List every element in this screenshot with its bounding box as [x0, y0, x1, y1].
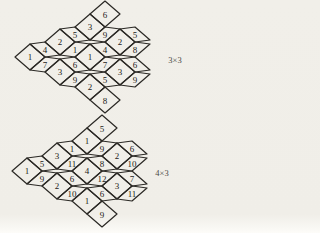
cell-number: 4 [85, 166, 90, 176]
cell-number: 4 [43, 45, 48, 55]
cell-number: 8 [103, 96, 108, 106]
cell-number: 9 [40, 174, 45, 184]
cell-number: 5 [40, 159, 45, 169]
cell-number: 5 [103, 75, 108, 85]
cell-number: 1 [28, 52, 33, 62]
cell-number: 2 [118, 37, 123, 47]
cell-number: 2 [55, 181, 60, 191]
figure-label-4x3: 4×3 [155, 168, 168, 178]
cell-number: 1 [73, 45, 78, 55]
cell-number: 6 [103, 10, 108, 20]
cell-number: 1 [85, 136, 90, 146]
cell-number: 9 [73, 75, 78, 85]
cell-number: 2 [58, 37, 63, 47]
cell-number: 2 [88, 82, 93, 92]
cell-number: 3 [88, 22, 93, 32]
cell-number: 3 [115, 181, 120, 191]
cell-number: 5 [100, 124, 105, 134]
cell-number: 9 [100, 210, 105, 220]
cell-number: 6 [130, 144, 135, 154]
cell-number: 6 [100, 189, 105, 199]
cell-number: 1 [25, 166, 30, 176]
cell-number: 6 [70, 174, 75, 184]
cell-number: 1 [70, 144, 75, 154]
cell-number: 9 [103, 30, 108, 40]
cell-number: 10 [128, 159, 138, 169]
cell-number: 7 [103, 60, 108, 70]
cell-number: 2 [115, 151, 120, 161]
cell-number: 3 [58, 67, 63, 77]
cell-number: 4 [103, 45, 108, 55]
rhombus-tiling-diagram: 369251258147147369369258 159311126101594… [0, 0, 184, 233]
figure-4x3: 15931112610159481226103711169 [12, 115, 147, 227]
cell-number: 11 [128, 189, 137, 199]
cell-number: 9 [133, 75, 138, 85]
cell-number: 5 [133, 30, 138, 40]
cell-number: 8 [100, 159, 105, 169]
cell-number: 3 [118, 67, 123, 77]
cell-number: 3 [55, 151, 60, 161]
figure-label-3x3: 3×3 [168, 55, 181, 65]
cell-number: 7 [130, 174, 135, 184]
cell-number: 7 [43, 60, 48, 70]
cell-number: 8 [133, 45, 138, 55]
cell-number: 6 [133, 60, 138, 70]
figure-3x3: 369251258147147369369258 [15, 1, 150, 113]
cell-number: 6 [73, 60, 78, 70]
cell-number: 9 [100, 144, 105, 154]
cell-number: 5 [73, 30, 78, 40]
cell-number: 1 [85, 196, 90, 206]
cell-number: 1 [88, 52, 93, 62]
